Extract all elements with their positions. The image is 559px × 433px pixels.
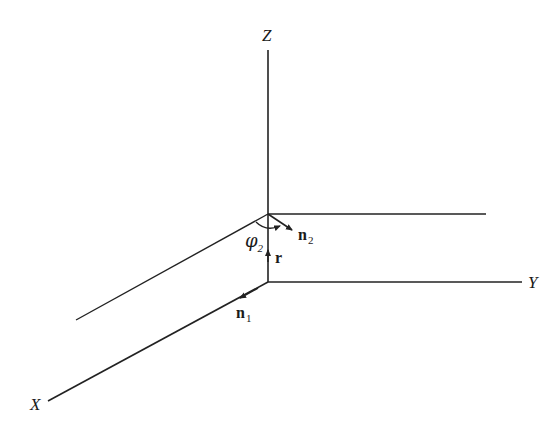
y-axis-label: Y bbox=[528, 273, 539, 292]
x-axis-label: X bbox=[29, 395, 41, 414]
r-label: r bbox=[275, 249, 282, 266]
coordinate-diagram: Z Y X n2 r n1 φ2 bbox=[0, 0, 559, 433]
n2-label: n2 bbox=[298, 226, 313, 246]
z-axis-label: Z bbox=[262, 26, 272, 45]
phi2-label: φ2 bbox=[245, 230, 264, 254]
x-axis bbox=[48, 282, 268, 401]
n1-label: n1 bbox=[236, 304, 251, 324]
n1-vector-arrow bbox=[240, 288, 258, 298]
